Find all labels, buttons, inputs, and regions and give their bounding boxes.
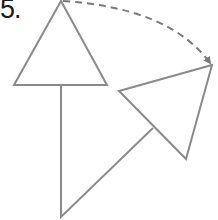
rotation-diagram (0, 0, 218, 220)
rotated-triangle (119, 65, 212, 159)
original-triangle (14, 1, 107, 85)
stem-triangle (61, 85, 153, 217)
rotation-arrow (63, 1, 210, 63)
